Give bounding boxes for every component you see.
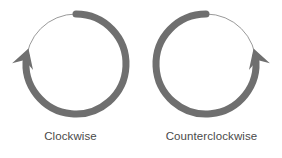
panel-clockwise: Clockwise — [0, 0, 141, 158]
counterclockwise-thick-arc — [156, 14, 256, 114]
caption-clockwise: Clockwise — [0, 128, 141, 144]
clockwise-rotation-arrow-icon — [0, 0, 141, 128]
panel-counterclockwise: Counterclockwise — [141, 0, 282, 158]
rotation-direction-diagram: Clockwise Counterclockwise — [0, 0, 282, 158]
clockwise-thick-arc — [26, 14, 126, 114]
counterclockwise-rotation-arrow-icon — [141, 0, 282, 128]
caption-counterclockwise: Counterclockwise — [141, 128, 282, 144]
